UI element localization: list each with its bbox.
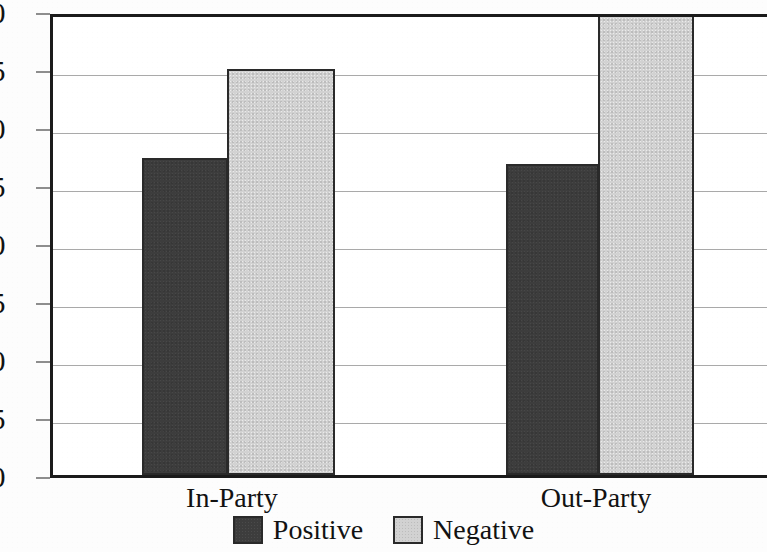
y-tick-label-5: 5 bbox=[0, 404, 5, 434]
y-tick-label-30: 30 bbox=[0, 114, 5, 144]
legend-swatch-negative bbox=[393, 516, 423, 544]
y-tick-mark-5 bbox=[36, 419, 50, 421]
y-tick-label-40: 40 bbox=[0, 0, 5, 28]
bar-out-party-positive bbox=[506, 164, 599, 475]
y-tick-label-35: 35 bbox=[0, 56, 5, 86]
chart-figure: 4035302520151050 In-PartyOut-Party Posit… bbox=[0, 0, 767, 552]
y-tick-mark-0 bbox=[36, 477, 50, 479]
x-axis-label-in-party: In-Party bbox=[186, 483, 278, 513]
legend-item-negative[interactable]: Negative bbox=[393, 515, 534, 545]
y-tick-mark-30 bbox=[36, 129, 50, 131]
legend: PositiveNegative bbox=[0, 515, 767, 545]
x-axis-label-out-party: Out-Party bbox=[541, 483, 651, 513]
y-tick-label-20: 20 bbox=[0, 230, 5, 260]
y-tick-mark-20 bbox=[36, 245, 50, 247]
bar-in-party-positive bbox=[142, 158, 228, 475]
bar-out-party-negative bbox=[598, 14, 694, 475]
legend-swatch-positive bbox=[233, 516, 263, 544]
legend-label-positive: Positive bbox=[273, 515, 363, 545]
y-tick-label-25: 25 bbox=[0, 172, 5, 202]
legend-label-negative: Negative bbox=[433, 515, 534, 545]
y-tick-label-0: 0 bbox=[0, 462, 5, 492]
y-tick-label-10: 10 bbox=[0, 346, 5, 376]
y-tick-mark-25 bbox=[36, 187, 50, 189]
y-tick-mark-10 bbox=[36, 361, 50, 363]
y-tick-mark-40 bbox=[36, 13, 50, 15]
y-tick-mark-35 bbox=[36, 71, 50, 73]
y-tick-label-15: 15 bbox=[0, 288, 5, 318]
plot-area bbox=[50, 14, 767, 478]
bar-in-party-negative bbox=[227, 69, 335, 475]
legend-item-positive[interactable]: Positive bbox=[233, 515, 363, 545]
y-tick-mark-15 bbox=[36, 303, 50, 305]
